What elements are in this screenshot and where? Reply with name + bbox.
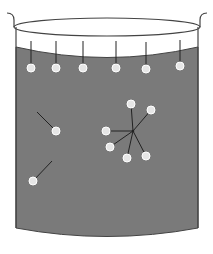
cluster-molecule [142,152,150,160]
surface-molecule [112,64,120,72]
cluster-molecule [147,106,155,114]
cluster-molecule [102,127,110,135]
surface-molecule [79,64,87,72]
bulk-molecule [52,127,60,135]
cluster-molecule [106,143,114,151]
beaker-diagram [0,0,213,254]
surface-molecule [176,62,184,70]
surface-molecule [52,64,60,72]
cluster-molecule [127,100,135,108]
beaker-lip-left [7,13,14,27]
beaker-lip-right [200,13,207,27]
surface-molecule [142,65,150,73]
beaker-illustration [0,0,213,254]
liquid-body [16,47,198,237]
cluster-center [132,130,135,133]
surface-molecule [27,64,35,72]
cluster-molecule [123,154,131,162]
bulk-molecule [29,177,37,185]
beaker-rim [14,18,200,36]
